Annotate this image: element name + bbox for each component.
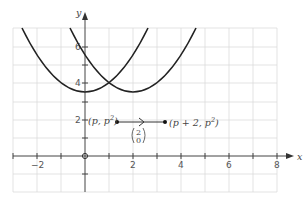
y-tick-label: 4: [75, 78, 81, 88]
translation-vector: 2 0: [132, 128, 145, 145]
graph: x y −2 2 4 6 8 2 4 6 (p, p2) (p + 2, p2)…: [0, 0, 305, 202]
point-p-plus-2: [163, 120, 167, 124]
x-axis-label: x: [297, 151, 303, 162]
grid: [13, 28, 277, 192]
y-tick-label: 2: [75, 115, 81, 125]
x-axis-arrow-icon: [286, 153, 294, 159]
point-p-label: (p, p2): [88, 114, 118, 126]
x-tick-label: 4: [178, 160, 184, 170]
y-axis-label: y: [75, 7, 82, 18]
y-axis-arrow-icon: [82, 12, 88, 20]
vector-bottom: 0: [136, 136, 141, 145]
x-tick-label: 2: [130, 160, 136, 170]
x-tick-label: −2: [31, 160, 44, 170]
axes: [13, 18, 288, 192]
x-tick-label: 6: [226, 160, 232, 170]
point-p-plus-2-label: (p + 2, p2): [169, 116, 219, 128]
x-tick-label: 8: [274, 160, 280, 170]
